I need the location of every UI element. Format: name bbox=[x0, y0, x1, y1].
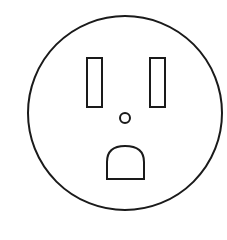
left-slot-icon bbox=[87, 58, 102, 107]
center-screw-hole-icon bbox=[120, 113, 130, 123]
right-slot-icon bbox=[150, 58, 165, 107]
ground-hole-icon bbox=[107, 146, 144, 179]
